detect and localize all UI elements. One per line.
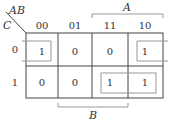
cell-r0-c0: 1 (39, 46, 45, 57)
col-variable-label: AB (8, 4, 25, 17)
cell-r0-c2: 0 (107, 46, 113, 57)
cell-r1-c3: 1 (142, 77, 148, 88)
col-label-11: 11 (104, 20, 117, 31)
col-label-10: 10 (139, 20, 152, 31)
row-label-0: 0 (12, 44, 18, 55)
cell-r0-c1: 0 (72, 46, 78, 57)
row-label-1: 1 (12, 77, 18, 88)
cell-r1-c1: 0 (72, 77, 78, 88)
cell-r0-c3: 1 (142, 46, 148, 57)
col-label-01: 01 (69, 20, 82, 31)
bracket-b (58, 103, 128, 107)
bracket-a-label: A (122, 1, 131, 14)
row-variable-label: C (3, 19, 12, 32)
bracket-a (92, 14, 163, 18)
cell-r1-c2: 1 (107, 77, 113, 88)
karnaugh-map: AB C 00 01 11 10 0 1 A B 1 0 0 1 0 0 1 1 (0, 0, 170, 123)
bracket-b-label: B (88, 109, 97, 122)
cell-r1-c0: 0 (39, 77, 45, 88)
col-label-00: 00 (36, 20, 49, 31)
